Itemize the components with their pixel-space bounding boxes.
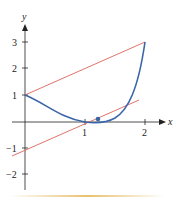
tangent-line [12,100,139,156]
x-axis-label: x [167,116,173,127]
x-axis: 1 2 x [12,116,173,138]
y-tick-neg2: −2 [6,169,17,180]
point-c [96,117,101,122]
x-tick-1: 1 [82,127,87,138]
y-tick-1: 1 [12,90,17,101]
secant-line [25,42,145,95]
y-tick-neg1: −1 [6,143,17,154]
mvt-chart: 1 2 x 3 2 1 −1 −2 y [0,0,178,199]
bottom-rule [10,195,165,197]
function-curve [25,42,145,123]
y-axis: 3 2 1 −1 −2 y [6,11,28,190]
y-tick-2: 2 [12,63,17,74]
y-tick-3: 3 [12,37,17,48]
y-axis-label: y [21,11,27,22]
x-tick-2: 2 [142,127,147,138]
